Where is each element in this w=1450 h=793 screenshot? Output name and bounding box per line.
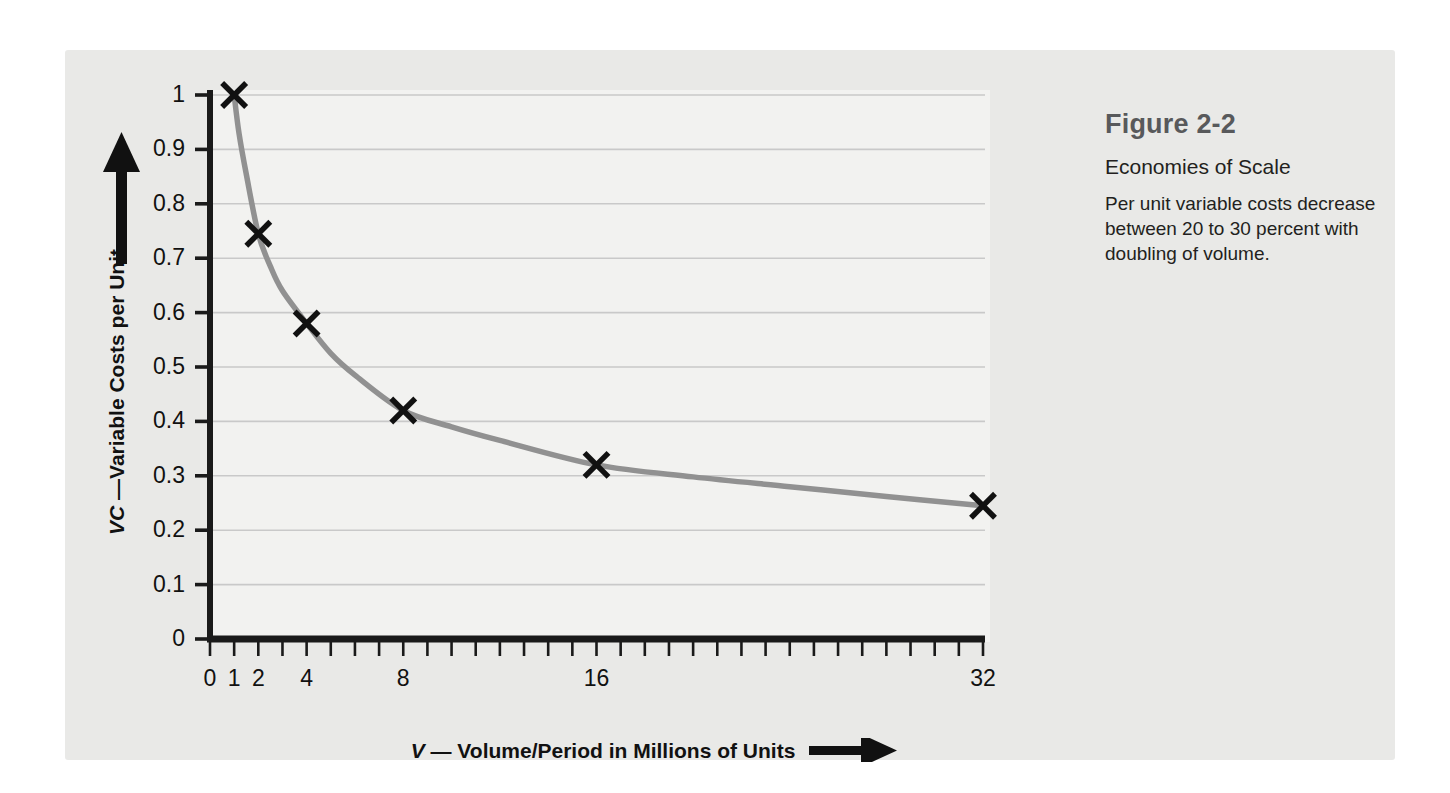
y-axis-tick-label: 0.5 <box>125 355 185 378</box>
figure-description: Per unit variable costs decrease between… <box>1105 191 1405 267</box>
figure-number-title: Figure 2-2 <box>1105 110 1405 140</box>
y-axis-tick-label: 0.9 <box>125 137 185 160</box>
x-axis-tick-label: 2 <box>233 667 283 690</box>
figure-subtitle: Economies of Scale <box>1105 154 1405 179</box>
figure-root: 00.10.20.30.40.50.60.70.80.91 012481632 … <box>0 0 1450 793</box>
y-axis-tick-label: 0.1 <box>125 573 185 596</box>
x-axis-tick-label: 32 <box>958 667 1008 690</box>
y-axis-tick-label: 0.6 <box>125 301 185 324</box>
y-axis-title-text: —Variable Costs per Unit <box>105 249 128 506</box>
x-axis-tick-label: 8 <box>378 667 428 690</box>
chart-plot-area: 00.10.20.30.40.50.60.70.80.91 012481632 … <box>65 50 1125 760</box>
y-axis-tick-label: 0 <box>125 627 185 650</box>
x-axis-title-symbol: V <box>411 739 425 762</box>
economies-of-scale-chart <box>65 50 1125 760</box>
y-axis-tick-label: 0.7 <box>125 246 185 269</box>
y-axis-title-symbol: VC <box>105 506 128 535</box>
x-axis-title: V — Volume/Period in Millions of Units <box>335 738 975 767</box>
figure-panel: 00.10.20.30.40.50.60.70.80.91 012481632 … <box>65 50 1395 760</box>
x-axis-tick-label: 16 <box>572 667 622 690</box>
y-axis-tick-label: 0.8 <box>125 192 185 215</box>
y-axis-tick-label: 0.3 <box>125 464 185 487</box>
y-axis-tick-label: 0.2 <box>125 518 185 541</box>
figure-caption-block: Figure 2-2 Economies of Scale Per unit v… <box>1105 110 1405 267</box>
plot-background <box>210 90 990 642</box>
y-axis-tick-label: 0.4 <box>125 409 185 432</box>
y-axis-title: VC —Variable Costs per Unit <box>105 212 129 572</box>
x-axis-title-text: — Volume/Period in Millions of Units <box>425 739 796 762</box>
x-axis-tick-label: 4 <box>282 667 332 690</box>
y-axis-tick-label: 1 <box>125 83 185 106</box>
right-arrow-icon <box>809 738 899 767</box>
